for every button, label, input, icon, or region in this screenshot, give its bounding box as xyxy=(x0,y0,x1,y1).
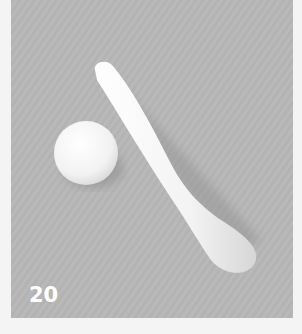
clay-ball xyxy=(54,121,118,185)
clay-shapes-illustration xyxy=(11,0,293,318)
step-number-label: 20 xyxy=(29,283,58,307)
photo: 20 xyxy=(11,0,293,318)
